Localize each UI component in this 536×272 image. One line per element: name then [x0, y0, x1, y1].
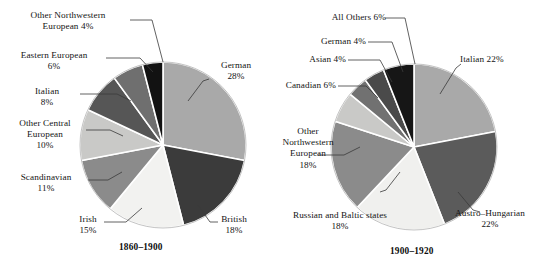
chart-caption-1860-1900: 1860–1900 [119, 242, 163, 252]
slice-label-other-central-european: Other Central European 10% [4, 118, 86, 152]
slice-label-german: German 4% [274, 36, 366, 47]
slice-label-all-others: All Others 6% [278, 12, 386, 23]
slice-label-italian: Italian 8% [14, 86, 80, 108]
slice-label-italian: Italian 22% [460, 54, 536, 65]
slice-label-german: German 28% [210, 60, 262, 82]
slice-label-canadian: Canadian 6% [260, 80, 336, 91]
slice-label-scandinavian: Scandinavian 11% [4, 172, 88, 194]
chart-caption-1900-1920: 1900–1920 [390, 246, 434, 256]
slice-label-irish: Irish 15% [72, 214, 104, 236]
pie-chart-figure: Other Northwestern European 4% Eastern E… [0, 0, 536, 272]
chart-panel-1860-1900: Other Northwestern European 4% Eastern E… [0, 0, 268, 272]
slice-label-austro-hungarian: Austro–Hungarian 22% [444, 208, 536, 230]
chart-panel-1900-1920: All Others 6% German 4% Asian 4% Canadia… [268, 0, 536, 272]
slice-label-asian: Asian 4% [272, 54, 346, 65]
slice-label-other-northwestern-european: Other Northwestern European 4% [6, 10, 130, 32]
slice-label-british: British 18% [212, 214, 256, 236]
pie-slices-1860-1900 [80, 62, 246, 228]
leader-other-northwestern-european [130, 20, 163, 62]
slice-label-other-northwestern-european: Other Northwestern European 18% [266, 126, 350, 171]
leader-all-others [385, 18, 415, 64]
slice-label-eastern-european: Eastern European 6% [2, 50, 106, 72]
pie-slices-1900-1920 [331, 64, 497, 230]
slice-label-russian-and-baltic-states: Russian and Baltic states 18% [272, 210, 408, 232]
